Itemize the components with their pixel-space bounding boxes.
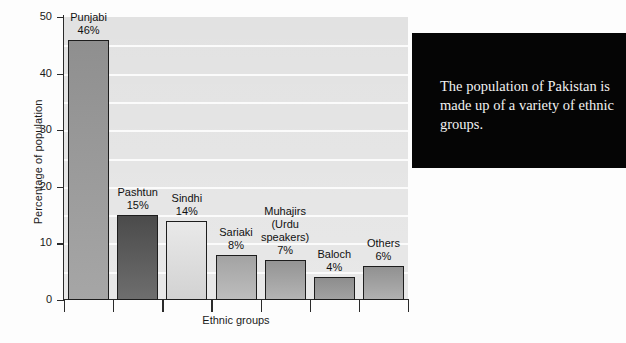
x-axis-title: Ethnic groups bbox=[64, 314, 408, 326]
bar-label-sindhi: Sindhi 14% bbox=[139, 192, 235, 218]
x-tick bbox=[162, 300, 163, 312]
gridline bbox=[64, 45, 408, 47]
gridline bbox=[64, 102, 408, 104]
page-root: Percentage of population 01020304050 Pun… bbox=[0, 0, 626, 343]
bar-sariaki bbox=[216, 255, 257, 300]
y-axis-line bbox=[63, 15, 64, 301]
bar-label-others: Others 6% bbox=[335, 237, 431, 263]
gridline bbox=[64, 130, 408, 132]
bar-label-punjabi: Punjabi 46% bbox=[41, 11, 137, 37]
y-axis-title: Percentage of population bbox=[32, 62, 44, 262]
y-tick-label: 30 bbox=[22, 123, 52, 135]
bar-chart-figure: Percentage of population 01020304050 Pun… bbox=[0, 0, 412, 343]
bar-others bbox=[363, 266, 404, 300]
y-tick-label: 40 bbox=[22, 67, 52, 79]
y-tick-label: 0 bbox=[22, 293, 52, 305]
x-tick bbox=[113, 300, 114, 312]
x-tick bbox=[211, 300, 212, 312]
caption-text: The population of Pakistan is made up of… bbox=[440, 77, 616, 134]
x-tick bbox=[310, 300, 311, 312]
y-tick bbox=[57, 74, 63, 75]
y-tick-label: 10 bbox=[22, 236, 52, 248]
y-tick bbox=[57, 187, 63, 188]
gridline bbox=[64, 159, 408, 161]
caption-box: The population of Pakistan is made up of… bbox=[412, 33, 626, 168]
y-tick bbox=[57, 300, 63, 301]
y-tick bbox=[57, 130, 63, 131]
gridline bbox=[64, 215, 408, 217]
x-tick bbox=[408, 300, 409, 312]
bar-punjabi bbox=[68, 40, 109, 300]
y-tick-label: 20 bbox=[22, 180, 52, 192]
y-tick bbox=[57, 243, 63, 244]
bar-pashtun bbox=[117, 215, 158, 300]
x-tick bbox=[64, 300, 65, 312]
x-tick bbox=[359, 300, 360, 312]
gridline bbox=[64, 74, 408, 76]
bar-baloch bbox=[314, 277, 355, 300]
x-tick bbox=[261, 300, 262, 312]
